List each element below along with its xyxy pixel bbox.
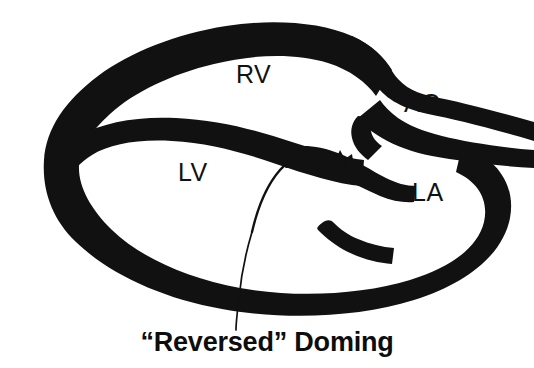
figure-caption: “Reversed” Doming	[0, 328, 534, 356]
label-aorta: AO	[404, 91, 441, 116]
heart-diagram-figure: RV AO LV LA “Reversed” Doming	[0, 0, 534, 368]
heart-schematic-svg	[0, 0, 534, 368]
label-left-atrium: LA	[412, 180, 444, 205]
label-right-ventricle: RV	[236, 62, 271, 87]
label-left-ventricle: LV	[178, 160, 208, 185]
